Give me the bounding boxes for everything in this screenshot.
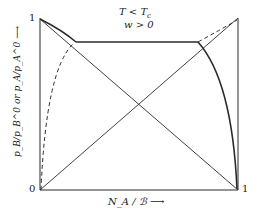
phase-diagram <box>0 0 257 218</box>
y-axis-label: p_B/p_B^0 or p_A/p_A^0 ⟶ <box>12 47 22 157</box>
x-axis-label: N_A / ℬ ⟶ <box>108 196 164 207</box>
curve-b-left <box>40 19 76 42</box>
condition-temperature: T < Tc <box>119 6 151 20</box>
curve-a-right <box>198 42 237 189</box>
arrow-right-icon: ⟶ <box>150 196 164 207</box>
arrow-up-icon: ⟶ <box>12 26 22 39</box>
curve-b-dashed <box>198 20 237 42</box>
tick-left-top: 1 <box>29 12 35 23</box>
condition-w: w > 0 <box>124 19 154 30</box>
tick-origin: 0 <box>29 183 35 194</box>
curve-a-dashed <box>41 44 73 190</box>
tick-right-bottom: 1 <box>242 183 248 194</box>
